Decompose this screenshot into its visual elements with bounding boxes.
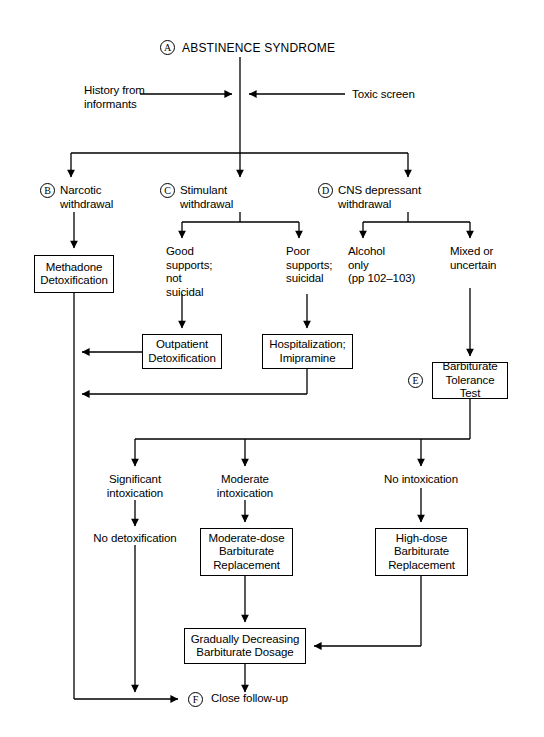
tag-b: B (40, 183, 55, 198)
box-gradually-decreasing-label: Gradually Decreasing Barbiturate Dosage (191, 633, 300, 660)
box-barbiturate-tolerance-test[interactable]: Barbiturate Tolerance Test (432, 362, 508, 399)
condition-moderate-intoxication: Moderate intoxication (208, 473, 282, 500)
box-outpatient-label: Outpatient Detoxification (148, 338, 216, 365)
box-gradually-decreasing-barbiturate-dosage[interactable]: Gradually Decreasing Barbiturate Dosage (184, 628, 306, 664)
box-high-dose-label: High-dose Barbiturate Replacement (388, 532, 455, 573)
box-outpatient-detoxification[interactable]: Outpatient Detoxification (142, 334, 222, 369)
tag-e: E (408, 373, 423, 388)
box-tolerance-test-label: Barbiturate Tolerance Test (437, 360, 503, 401)
flowchart-canvas: A ABSTINENCE SYNDROME History from infor… (0, 0, 544, 737)
branch-cns-depressant-withdrawal: CNS depressant withdrawal (338, 184, 444, 211)
outcome-close-follow-up: Close follow-up (211, 692, 331, 706)
condition-no-intoxication: No intoxication (377, 473, 465, 487)
condition-alcohol-only: Alcohol only (pp 102–103) (348, 245, 424, 286)
tag-f: F (188, 692, 203, 707)
condition-mixed-or-uncertain: Mixed or uncertain (450, 245, 524, 272)
branch-narcotic-withdrawal: Narcotic withdrawal (60, 184, 126, 211)
box-methadone-label: Methadone Detoxification (40, 261, 108, 288)
page-title: ABSTINENCE SYNDROME (182, 41, 335, 55)
input-history-from-informants: History from informants (84, 84, 148, 111)
tag-d: D (318, 183, 333, 198)
box-moderate-dose-label: Moderate-dose Barbiturate Replacement (208, 532, 284, 573)
condition-good-supports: Good supports; not suicidal (166, 245, 232, 299)
branch-stimulant-withdrawal: Stimulant withdrawal (180, 184, 252, 211)
outcome-no-detoxification: No detoxification (85, 532, 185, 546)
box-hospitalization-imipramine[interactable]: Hospitalization; Imipramine (262, 334, 353, 369)
tag-a: A (160, 40, 175, 55)
condition-poor-supports: Poor supports; suicidal (286, 245, 352, 286)
box-methadone-detoxification[interactable]: Methadone Detoxification (34, 255, 114, 293)
box-hospitalization-label: Hospitalization; Imipramine (269, 338, 345, 365)
box-moderate-dose-barbiturate-replacement[interactable]: Moderate-dose Barbiturate Replacement (200, 528, 293, 576)
condition-significant-intoxication: Significant intoxication (96, 473, 174, 500)
input-toxic-screen: Toxic screen (352, 88, 432, 102)
box-high-dose-barbiturate-replacement[interactable]: High-dose Barbiturate Replacement (375, 528, 468, 576)
tag-c: C (160, 183, 175, 198)
